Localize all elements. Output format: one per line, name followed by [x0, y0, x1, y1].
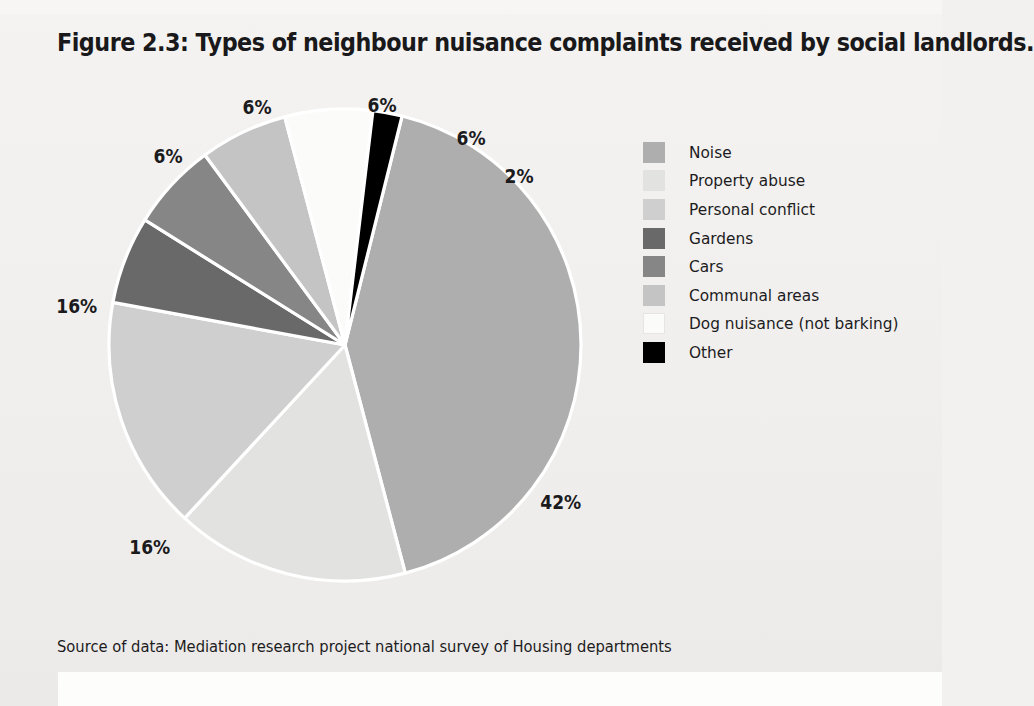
paper-edge-bottom [58, 672, 942, 706]
legend-swatch-icon [643, 313, 665, 334]
pie-percentage-label: 2% [505, 165, 534, 187]
source-note: Source of data: Mediation research proje… [57, 637, 672, 656]
pie-percentage-label: 6% [457, 127, 486, 149]
legend-item-label: Cars [689, 257, 723, 276]
legend-item[interactable]: Personal conflict [643, 195, 933, 224]
legend-item[interactable]: Other [643, 338, 933, 367]
legend-item-label: Other [689, 343, 733, 362]
legend-item-label: Communal areas [689, 286, 819, 305]
legend-swatch-icon [643, 342, 665, 363]
pie-percentage-label: 6% [368, 94, 397, 116]
pie-percentage-label: 16% [129, 536, 170, 558]
pie-percentage-label: 6% [154, 145, 183, 167]
legend-item-label: Noise [689, 143, 732, 162]
legend-swatch-icon [643, 170, 665, 191]
legend-item[interactable]: Communal areas [643, 281, 933, 310]
legend-item-label: Property abuse [689, 171, 805, 190]
pie-percentage-label: 6% [243, 96, 272, 118]
legend-item-label: Gardens [689, 229, 753, 248]
figure-title: Figure 2.3: Types of neighbour nuisance … [57, 27, 1034, 57]
chart-legend: NoiseProperty abusePersonal conflictGard… [643, 138, 933, 367]
chart-area: 6%6%6%6%2%16%42%16% NoiseProperty abuseP… [0, 80, 942, 625]
paper-edge-top [0, 0, 942, 14]
legend-item[interactable]: Dog nuisance (not barking) [643, 310, 933, 339]
legend-item[interactable]: Gardens [643, 224, 933, 253]
legend-item-label: Personal conflict [689, 200, 815, 219]
legend-swatch-icon [643, 256, 665, 277]
legend-swatch-icon [643, 228, 665, 249]
legend-swatch-icon [643, 142, 665, 163]
legend-item[interactable]: Property abuse [643, 167, 933, 196]
legend-item[interactable]: Cars [643, 252, 933, 281]
legend-swatch-icon [643, 285, 665, 306]
legend-swatch-icon [643, 199, 665, 220]
legend-item-label: Dog nuisance (not barking) [689, 314, 898, 333]
legend-item[interactable]: Noise [643, 138, 933, 167]
pie-percentage-label: 42% [540, 491, 581, 513]
pie-percentage-label: 16% [56, 295, 97, 317]
